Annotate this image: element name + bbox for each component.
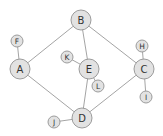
node-label: C [141,64,148,75]
node-label: J [52,118,55,127]
node-b: B [71,10,91,30]
node-h: H [136,40,148,52]
node-k: K [61,51,73,63]
edge-a-d [20,69,82,118]
node-label: A [17,64,24,75]
graph-diagram: BAECDFKLHIJ [0,0,163,136]
node-label: D [78,113,86,124]
node-label: I [145,93,147,102]
node-label: F [15,37,19,46]
nodes-layer: BAECDFKLHIJ [10,10,154,128]
edge-b-a [20,20,81,69]
node-d: D [72,108,92,128]
node-i: I [140,91,152,103]
node-l: L [92,80,104,92]
node-f: F [11,35,23,47]
node-label: E [86,64,92,75]
node-label: B [78,15,85,26]
node-j: J [48,116,60,128]
node-a: A [10,59,30,79]
node-label: H [139,42,145,51]
node-e: E [79,59,99,79]
node-c: C [134,59,154,79]
